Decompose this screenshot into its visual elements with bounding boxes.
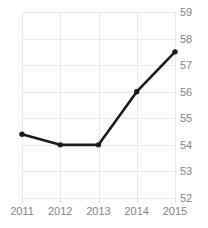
y-axis-tick-label: 57: [180, 59, 204, 71]
x-axis-tick-label: 2013: [79, 205, 119, 217]
plot-area: [22, 12, 175, 198]
y-axis-tick-label: 54: [180, 139, 204, 151]
x-axis-tick-label: 2014: [117, 205, 157, 217]
y-axis-tick-label: 59: [180, 6, 204, 18]
x-axis-tick-label: 2012: [40, 205, 80, 217]
chart-title: [0, 0, 176, 3]
x-axis-tick-mark: [60, 198, 61, 203]
x-axis-tick-mark: [175, 198, 176, 203]
data-point-marker: [134, 89, 139, 94]
x-axis-tick-label: 2011: [2, 205, 42, 217]
gridline-vertical: [175, 12, 176, 198]
series-line: [22, 52, 175, 145]
y-axis-tick-label: 53: [180, 165, 204, 177]
x-axis-tick-mark: [22, 198, 23, 203]
y-axis-tick-label: 55: [180, 112, 204, 124]
x-axis-tick-label: 2015: [155, 205, 195, 217]
data-point-marker: [172, 49, 177, 54]
data-point-marker: [19, 132, 24, 137]
data-series-line: [22, 12, 175, 198]
y-axis-tick-label: 56: [180, 86, 204, 98]
x-axis-tick-mark: [137, 198, 138, 203]
y-axis: 5253545556575859: [180, 0, 208, 228]
data-point-marker: [58, 142, 63, 147]
data-point-marker: [96, 142, 101, 147]
y-axis-tick-label: 52: [180, 192, 204, 204]
x-axis-tick-mark: [99, 198, 100, 203]
line-chart: 5253545556575859 20112012201320142015: [0, 0, 208, 228]
y-axis-tick-label: 58: [180, 33, 204, 45]
x-axis: 20112012201320142015: [0, 205, 208, 223]
